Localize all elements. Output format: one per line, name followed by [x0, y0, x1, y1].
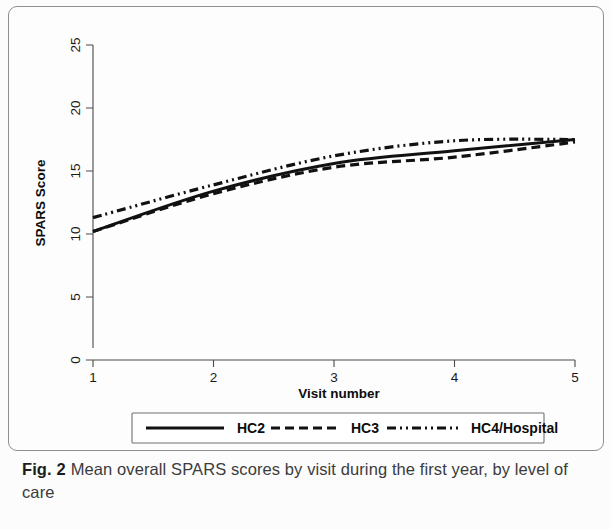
y-axis-title: SPARS Score: [33, 159, 48, 246]
legend-label-hc2: HC2: [237, 420, 265, 436]
x-tick-label: 3: [330, 370, 338, 385]
x-axis-title: Visit number: [298, 386, 380, 401]
legend-label-hc3: HC3: [351, 420, 379, 436]
y-tick-label: 10: [68, 226, 83, 241]
x-axis-ticks: 12345: [89, 360, 579, 385]
series-line-hc2: [93, 140, 575, 232]
y-tick-label: 15: [68, 163, 83, 178]
x-tick-label: 4: [451, 370, 459, 385]
spars-score-line-chart: 0510152025 12345 SPARS Score Visit numbe…: [9, 7, 604, 451]
y-axis-ticks: 0510152025: [68, 37, 94, 363]
figure-panel: 0510152025 12345 SPARS Score Visit numbe…: [0, 0, 612, 529]
figure-caption-text: Mean overall SPARS scores by visit durin…: [22, 460, 568, 501]
figure-caption-label: Fig. 2: [22, 460, 66, 478]
x-tick-label: 2: [210, 370, 218, 385]
series-lines: [93, 139, 575, 231]
series-line-hc3: [93, 142, 575, 231]
figure-frame: 0510152025 12345 SPARS Score Visit numbe…: [8, 6, 604, 451]
x-tick-label: 5: [571, 370, 579, 385]
legend-label-hc4-hospital: HC4/Hospital: [471, 420, 558, 436]
y-tick-label: 25: [68, 37, 83, 52]
chart-area: 0510152025 12345 SPARS Score Visit numbe…: [9, 7, 604, 451]
y-tick-label: 5: [68, 293, 83, 301]
y-tick-label: 0: [68, 356, 83, 364]
x-tick-label: 1: [89, 370, 97, 385]
figure-caption: Fig. 2Mean overall SPARS scores by visit…: [22, 458, 592, 505]
chart-legend: HC2HC3HC4/Hospital: [132, 413, 558, 443]
y-tick-label: 20: [68, 100, 83, 115]
